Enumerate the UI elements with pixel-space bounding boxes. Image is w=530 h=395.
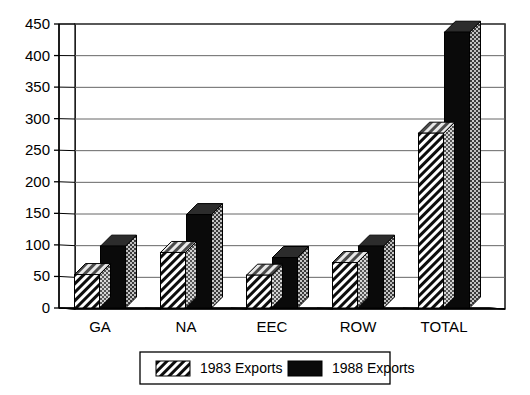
y-tick-label: 450: [25, 15, 50, 32]
bar-front-face: [247, 275, 272, 308]
legend-label-1988: 1988 Exports: [332, 360, 415, 376]
bar-side-face: [384, 235, 395, 308]
bar-GA-1983: [75, 264, 111, 308]
y-tick-label: 400: [25, 47, 50, 64]
bar-ROW-1983: [333, 252, 369, 308]
bar-side-face: [212, 204, 223, 308]
x-axis-category-labels: GANAEECROWTOTAL: [89, 318, 467, 335]
y-tick-connector: [59, 182, 75, 183]
bar-front-face: [333, 263, 358, 308]
x-category-label: ROW: [340, 318, 378, 335]
legend-swatch-1983: [156, 361, 190, 376]
x-category-label: EEC: [257, 318, 288, 335]
bar-front-face: [75, 275, 100, 308]
bar-EEC-1983: [247, 264, 283, 308]
left-wall: [59, 24, 75, 309]
y-tick-label: 50: [33, 267, 50, 284]
bar-NA-1983: [161, 241, 197, 308]
bar-front-face: [161, 252, 186, 308]
legend-swatch-1988: [288, 361, 322, 376]
x-category-label: NA: [176, 318, 197, 335]
y-tick-label: 150: [25, 204, 50, 221]
y-tick-connector: [59, 213, 75, 214]
y-tick-label: 0: [42, 299, 50, 316]
bar-side-face: [444, 122, 455, 308]
y-tick-label: 250: [25, 141, 50, 158]
y-tick-label: 200: [25, 173, 50, 190]
y-axis-tick-labels: 050100150200250300350400450: [25, 15, 50, 316]
y-tick-label: 300: [25, 110, 50, 127]
y-tick-label: 100: [25, 236, 50, 253]
bar-side-face: [126, 235, 137, 308]
chart-container: 050100150200250300350400450 GANAEECROWTO…: [0, 0, 530, 395]
y-tick-label: 350: [25, 78, 50, 95]
x-category-label: TOTAL: [421, 318, 468, 335]
legend: 1983 Exports 1988 Exports: [140, 352, 415, 384]
bar-side-face: [470, 21, 481, 308]
legend-label-1983: 1983 Exports: [200, 360, 283, 376]
bar-front-face: [419, 133, 444, 308]
bar-chart-3d: 050100150200250300350400450 GANAEECROWTO…: [0, 0, 530, 395]
bar-TOTAL-1983: [419, 122, 455, 308]
x-category-label: GA: [89, 318, 111, 335]
